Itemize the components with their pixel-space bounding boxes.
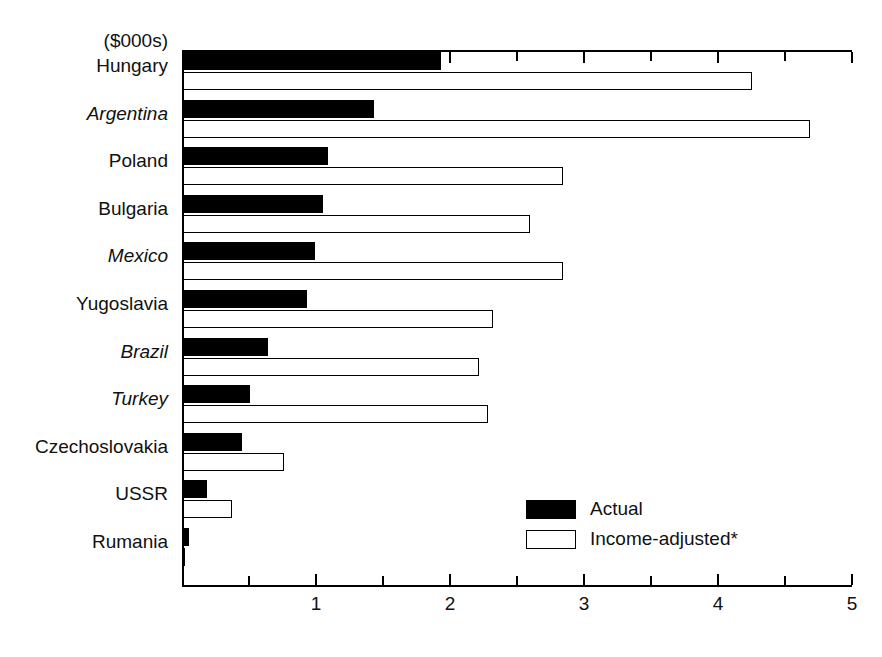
bar-income-adjusted <box>182 262 563 280</box>
x-tick-minor <box>248 576 250 585</box>
x-tick-major <box>717 574 719 585</box>
bar-actual <box>182 290 307 308</box>
bar-income-adjusted <box>182 72 752 90</box>
bar-income-adjusted <box>182 215 530 233</box>
x-tick-label: 1 <box>286 593 346 615</box>
category-label: Bulgaria <box>0 199 168 218</box>
category-label: Czechoslovakia <box>0 437 168 456</box>
bar-income-adjusted <box>182 120 810 138</box>
bar-income-adjusted <box>182 167 563 185</box>
category-label: Argentina <box>0 104 168 123</box>
bar-income-adjusted <box>182 358 479 376</box>
x-tick-label: 5 <box>822 593 882 615</box>
category-label: Yugoslavia <box>0 294 168 313</box>
legend-swatch-actual <box>526 500 576 519</box>
legend-label-income-adjusted: Income-adjusted* <box>590 528 738 550</box>
x-tick-minor <box>650 576 652 585</box>
x-axis-line <box>182 585 852 587</box>
y-axis-line <box>182 50 184 585</box>
legend-label-actual: Actual <box>590 498 643 520</box>
bar-income-adjusted <box>182 500 232 518</box>
bar-actual <box>182 480 207 498</box>
x-tick-minor <box>516 576 518 585</box>
x-tick-minor <box>516 52 518 61</box>
bar-actual <box>182 385 250 403</box>
bar-actual <box>182 195 323 213</box>
category-label: Poland <box>0 151 168 170</box>
bar-actual <box>182 52 441 70</box>
category-label: Rumania <box>0 532 168 551</box>
x-tick-major <box>315 52 317 63</box>
x-tick-major <box>851 574 853 585</box>
bar-income-adjusted <box>182 310 493 328</box>
axis-unit-label: ($000s) <box>0 30 168 52</box>
legend: Actual Income-adjusted* <box>526 498 826 554</box>
x-tick-minor <box>382 52 384 61</box>
x-tick-label: 3 <box>554 593 614 615</box>
x-tick-major <box>851 52 853 63</box>
x-tick-minor <box>650 52 652 61</box>
legend-item-income-adjusted: Income-adjusted* <box>526 528 738 550</box>
x-tick-label: 4 <box>688 593 748 615</box>
x-tick-major <box>583 52 585 63</box>
bar-actual <box>182 338 268 356</box>
bar-actual <box>182 100 374 118</box>
category-label: USSR <box>0 484 168 503</box>
bar-income-adjusted <box>182 405 488 423</box>
bar-income-adjusted <box>182 453 284 471</box>
x-tick-major <box>717 52 719 63</box>
legend-item-actual: Actual <box>526 498 643 520</box>
bar-actual <box>182 433 242 451</box>
x-tick-minor <box>784 576 786 585</box>
category-label: Mexico <box>0 246 168 265</box>
bar-actual <box>182 242 315 260</box>
category-label: Hungary <box>0 56 168 75</box>
x-tick-minor <box>382 576 384 585</box>
category-label: Turkey <box>0 389 168 408</box>
x-tick-major <box>315 574 317 585</box>
category-label: Brazil <box>0 342 168 361</box>
bar-chart: ($000s) HungaryArgentinaPolandBulgariaMe… <box>0 0 882 657</box>
legend-swatch-income-adjusted <box>526 530 576 549</box>
x-tick-label: 2 <box>420 593 480 615</box>
x-tick-minor <box>248 52 250 61</box>
x-tick-major <box>449 574 451 585</box>
x-tick-major <box>449 52 451 63</box>
x-tick-major <box>583 574 585 585</box>
x-tick-minor <box>784 52 786 61</box>
bar-actual <box>182 147 328 165</box>
